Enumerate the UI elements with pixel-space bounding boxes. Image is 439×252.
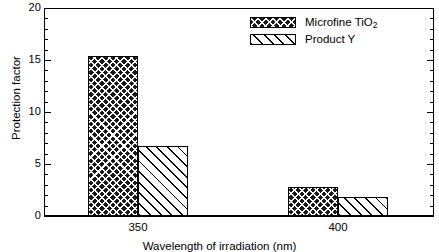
bar-product-y-400 <box>338 197 388 216</box>
bar-product-y-350 <box>138 146 188 216</box>
bar-microfine-tio2-400 <box>288 187 338 216</box>
legend-swatch-crosshatch-icon <box>250 17 296 28</box>
legend-entry-product-y: Product Y <box>250 31 377 48</box>
y-tick-label: 5 <box>35 158 41 169</box>
y-tick-major <box>44 216 51 217</box>
legend-label-microfine-tio2: Microfine TiO2 <box>305 16 377 29</box>
y-axis-title: Protection factor <box>10 28 22 168</box>
y-tick-label: 0 <box>35 210 41 221</box>
bar-microfine-tio2-350 <box>88 56 138 216</box>
chart-legend: Microfine TiO2 Product Y <box>250 14 377 48</box>
legend-label-product-y: Product Y <box>305 33 355 46</box>
y-tick-label: 10 <box>29 106 41 117</box>
y-tick-label: 15 <box>29 54 41 65</box>
y-tick-label: 20 <box>29 2 41 13</box>
x-tick-label-400: 400 <box>328 221 347 233</box>
x-axis-title: Wavelength of irradiation (nm) <box>0 240 439 252</box>
legend-swatch-diagonal-icon <box>250 34 296 45</box>
x-tick-label-350: 350 <box>128 221 147 233</box>
legend-entry-microfine-tio2: Microfine TiO2 <box>250 14 377 31</box>
y-tick-right-major <box>427 216 434 217</box>
